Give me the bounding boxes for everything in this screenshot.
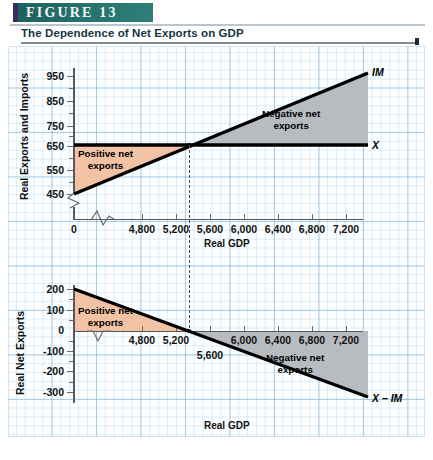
region-label-negative-bottom: Negative netexports: [266, 352, 324, 376]
bottom-chart-curves: [0, 0, 433, 460]
chart-net-exports: 200 100 0 -100 -200 -300 Real Net Export…: [0, 0, 433, 460]
curve-label-X-minus-IM: X – IM: [372, 392, 402, 404]
intersection-point-bottom: [187, 329, 191, 333]
region-label-positive-bottom: Positive netexports: [78, 305, 133, 329]
